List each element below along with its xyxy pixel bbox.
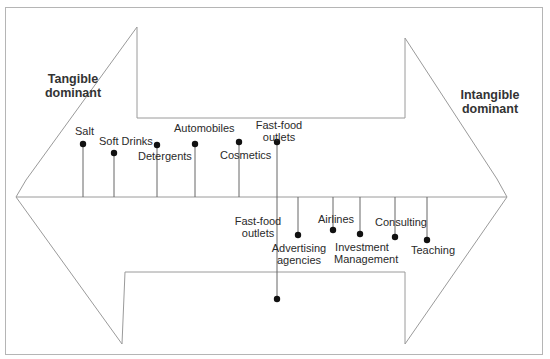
heading-line: Intangible <box>450 88 530 102</box>
label-consulting: Consulting <box>375 216 427 228</box>
label-line: Advertising <box>268 242 330 254</box>
label-investment-management: Investment Management <box>334 241 390 265</box>
label-airlines: Airlines <box>318 213 354 225</box>
label-fast-food-bottom: Fast-food outlets <box>232 215 284 239</box>
dot-airlines <box>330 227 336 233</box>
dot-advertising <box>295 232 301 238</box>
label-fast-food-top: Fast-food outlets <box>252 119 306 143</box>
label-cosmetics: Cosmetics <box>220 149 271 161</box>
label-line: agencies <box>268 254 330 266</box>
label-teaching: Teaching <box>411 244 455 256</box>
label-line: outlets <box>232 227 284 239</box>
label-automobiles: Automobiles <box>174 122 235 134</box>
heading-line: dominant <box>450 102 530 116</box>
dot-detergents <box>154 142 160 148</box>
label-line: Fast-food <box>232 215 284 227</box>
label-line: Fast-food <box>252 119 306 131</box>
label-line: outlets <box>252 131 306 143</box>
dot-cosmetics <box>236 139 242 145</box>
dot-teaching <box>424 237 430 243</box>
tangible-dominant-heading: Tangible dominant <box>38 72 108 100</box>
dot-automobiles <box>192 141 198 147</box>
label-salt: Salt <box>75 125 94 137</box>
diagram-shapes <box>0 0 550 359</box>
intangible-dominant-heading: Intangible dominant <box>450 88 530 116</box>
dot-investment <box>357 231 363 237</box>
dot-salt <box>80 141 86 147</box>
dot-consulting <box>392 234 398 240</box>
heading-line: dominant <box>38 86 108 100</box>
diagram-canvas: Tangible dominant Intangible dominant Sa… <box>0 0 550 359</box>
label-line: Investment <box>334 241 390 253</box>
dot-soft-drinks <box>111 150 117 156</box>
label-detergents: Detergents <box>138 150 192 162</box>
heading-line: Tangible <box>38 72 108 86</box>
label-advertising-agencies: Advertising agencies <box>268 242 330 266</box>
label-soft-drinks: Soft Drinks <box>99 135 153 147</box>
label-line: Management <box>334 253 390 265</box>
dot-fast-food-bottom <box>274 296 280 302</box>
